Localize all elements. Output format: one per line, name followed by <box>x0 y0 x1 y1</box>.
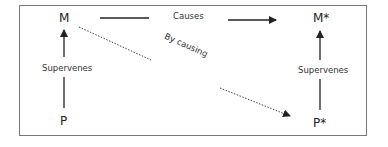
node-p: P <box>60 114 67 128</box>
supervenes-label-right: Supervenes <box>297 65 349 75</box>
node-m-star: M* <box>313 11 329 25</box>
node-p-star: P* <box>313 116 326 130</box>
causes-label: Causes <box>172 11 205 21</box>
node-m: M <box>59 11 69 25</box>
by-causing-line-upper <box>79 27 151 60</box>
by-causing-arrow <box>220 88 290 116</box>
supervenes-label-left: Supervenes <box>41 63 93 73</box>
